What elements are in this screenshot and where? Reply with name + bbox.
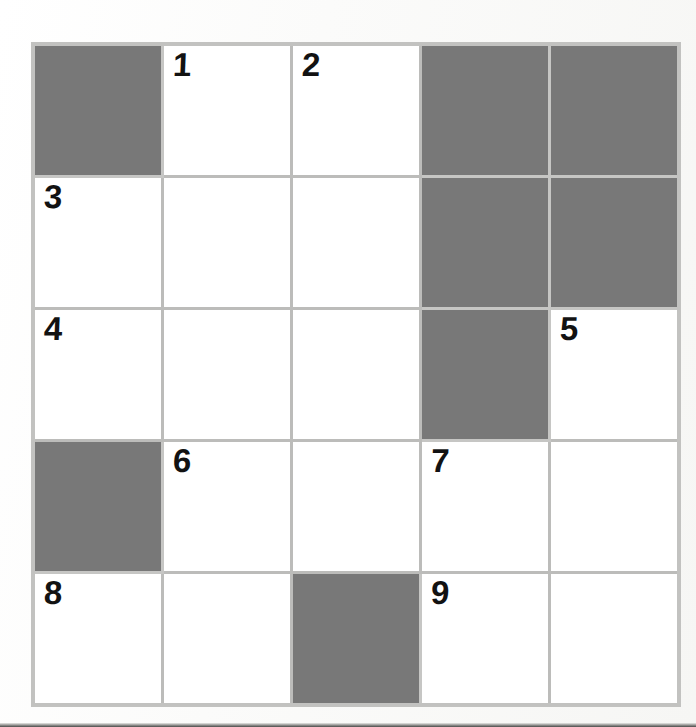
- cell-clue-number: 7: [430, 444, 450, 479]
- crossword-cell-shaded: [421, 44, 550, 177]
- crossword-cell-shaded: [33, 441, 163, 573]
- page-bottom-edge: [0, 723, 696, 727]
- crossword-cell-open[interactable]: [550, 441, 680, 573]
- cell-clue-number: 2: [301, 48, 321, 83]
- crossword-cell-open[interactable]: 2: [292, 44, 421, 177]
- crossword-cell-shaded: [421, 177, 550, 309]
- cell-clue-number: 8: [43, 576, 63, 611]
- cell-clue-number: 9: [430, 576, 450, 611]
- crossword-cell-open[interactable]: 4: [33, 309, 163, 441]
- cell-clue-number: 4: [43, 312, 63, 347]
- crossword-cell-open[interactable]: [292, 177, 421, 309]
- crossword-cell-shaded: [33, 44, 163, 177]
- crossword-cell-open[interactable]: 8: [33, 573, 163, 706]
- crossword-row: 3: [33, 177, 679, 309]
- cell-clue-number: 5: [559, 312, 579, 347]
- crossword-row: 67: [33, 441, 679, 573]
- crossword-row: 45: [33, 309, 679, 441]
- crossword-grid-container: 123456789: [31, 42, 663, 688]
- crossword-cell-open[interactable]: 5: [550, 309, 680, 441]
- crossword-cell-open[interactable]: 6: [163, 441, 292, 573]
- crossword-grid-body: 123456789: [33, 44, 679, 705]
- crossword-cell-open[interactable]: [292, 441, 421, 573]
- cell-clue-number: 3: [43, 180, 63, 215]
- crossword-cell-shaded: [421, 309, 550, 441]
- crossword-cell-open[interactable]: 9: [421, 573, 550, 706]
- crossword-cell-open[interactable]: [550, 573, 680, 706]
- crossword-cell-open[interactable]: 3: [33, 177, 163, 309]
- crossword-cell-open[interactable]: [163, 177, 292, 309]
- crossword-cell-open[interactable]: 7: [421, 441, 550, 573]
- crossword-cell-open[interactable]: 1: [163, 44, 292, 177]
- crossword-row: 12: [33, 44, 679, 177]
- crossword-grid[interactable]: 123456789: [31, 42, 681, 707]
- cell-clue-number: 1: [172, 48, 192, 83]
- crossword-cell-shaded: [550, 44, 680, 177]
- crossword-cell-open[interactable]: [163, 573, 292, 706]
- crossword-cell-shaded: [550, 177, 680, 309]
- crossword-cell-open[interactable]: [163, 309, 292, 441]
- crossword-row: 89: [33, 573, 679, 706]
- crossword-cell-shaded: [292, 573, 421, 706]
- cell-clue-number: 6: [172, 444, 192, 479]
- crossword-cell-open[interactable]: [292, 309, 421, 441]
